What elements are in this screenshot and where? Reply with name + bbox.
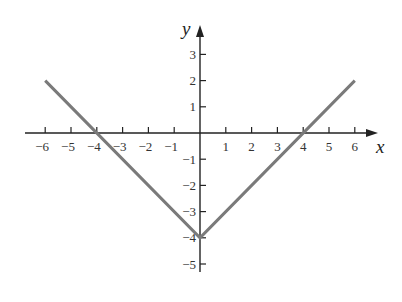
x-tick-label: 5 (326, 139, 333, 154)
y-tick-label: 2 (190, 73, 197, 88)
x-tick-label: −5 (61, 139, 75, 154)
x-tick-label: 6 (352, 139, 359, 154)
x-tick-label: −4 (87, 139, 101, 154)
x-tick-label: −1 (164, 139, 178, 154)
y-tick-label: 1 (190, 99, 197, 114)
y-tick-label: −5 (182, 257, 196, 272)
chart: −6−5−4−3−2−1123456321−1−2−3−4−5 x y (0, 0, 402, 302)
x-tick-label: 2 (248, 139, 255, 154)
y-tick-label: −3 (182, 204, 196, 219)
x-tick-label: 3 (274, 139, 281, 154)
y-axis-label: y (180, 18, 191, 39)
x-tick-label: −2 (138, 139, 152, 154)
ticks: −6−5−4−3−2−1123456321−1−2−3−4−5 (35, 47, 358, 272)
y-tick-label: −1 (182, 152, 196, 167)
y-tick-label: 3 (190, 47, 197, 62)
x-tick-label: 4 (300, 139, 307, 154)
x-axis-label: x (375, 136, 385, 157)
y-tick-label: −2 (182, 178, 196, 193)
x-tick-label: 1 (223, 139, 230, 154)
x-tick-label: −6 (35, 139, 49, 154)
y-axis-arrow (196, 25, 204, 37)
